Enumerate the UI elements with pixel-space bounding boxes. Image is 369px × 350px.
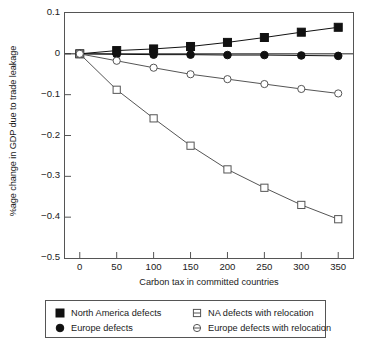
plot-area: [64, 12, 354, 259]
x-tick-label: 150: [171, 261, 211, 272]
data-point-marker: [187, 142, 194, 149]
data-point-marker: [335, 216, 342, 223]
data-point-marker: [187, 42, 195, 50]
data-point-marker: [150, 51, 158, 59]
x-tick-label: 50: [97, 261, 137, 272]
x-tick-label: 300: [281, 261, 321, 272]
y-tick-label: 0.1: [24, 7, 60, 17]
x-axis-title: Carbon tax in committed countries: [64, 277, 354, 287]
y-axis-tick-labels: 0.10−0.1−0.2−0.3−0.4−0.5: [20, 0, 60, 262]
plot-svg: [65, 13, 353, 258]
data-point-marker: [334, 23, 342, 31]
legend-item[interactable]: Europe defects with relocation: [191, 322, 331, 334]
data-point-marker: [334, 52, 342, 60]
legend-item[interactable]: NA defects with relocation: [191, 307, 314, 319]
data-point-marker: [187, 71, 194, 78]
y-tick-label: −0.3: [24, 170, 60, 180]
x-tick-label: 250: [244, 261, 284, 272]
x-axis-tick-labels: 050100150200250300350: [64, 261, 354, 277]
data-point-marker: [223, 38, 231, 46]
y-tick-label: −0.2: [24, 130, 60, 140]
chart-legend: North America defectsEurope defectsNA de…: [45, 300, 326, 338]
filled-square-icon: [54, 307, 66, 319]
data-point-marker: [56, 309, 64, 317]
data-point-marker: [298, 52, 306, 60]
open-circle-icon: [191, 322, 203, 334]
data-point-marker: [150, 64, 157, 71]
x-tick-label: 0: [60, 261, 100, 272]
y-tick-label: −0.1: [24, 89, 60, 99]
x-tick-label: 200: [207, 261, 247, 272]
legend-item-label: Europe defects with relocation: [208, 323, 331, 333]
y-tick-label: −0.4: [24, 211, 60, 221]
data-point-marker: [150, 115, 157, 122]
data-point-marker: [224, 166, 231, 173]
data-point-marker: [224, 51, 232, 59]
filled-circle-icon: [54, 322, 66, 334]
series-line: [80, 54, 338, 219]
data-point-marker: [335, 90, 342, 97]
legend-item-label: Europe defects: [71, 323, 133, 333]
legend-item-label: NA defects with relocation: [208, 308, 314, 318]
data-point-marker: [224, 76, 231, 83]
x-tick-label: 100: [134, 261, 174, 272]
legend-item-label: North America defects: [71, 308, 161, 318]
chart-figure: %age change in GDP due to trade leakage …: [0, 0, 369, 350]
data-point-marker: [113, 86, 120, 93]
data-point-marker: [261, 184, 268, 191]
open-square-icon: [191, 307, 203, 319]
y-axis-title: %age change in GDP due to trade leakage: [8, 46, 18, 217]
x-tick-label: 350: [318, 261, 358, 272]
data-point-marker: [261, 80, 268, 87]
y-tick-label: −0.5: [24, 252, 60, 262]
series-na-defects-with-relocation: [76, 50, 342, 223]
legend-item[interactable]: Europe defects: [54, 322, 133, 334]
legend-item[interactable]: North America defects: [54, 307, 161, 319]
data-point-marker: [76, 50, 83, 57]
data-point-marker: [298, 201, 305, 208]
data-point-marker: [56, 324, 64, 332]
y-tick-label: 0: [24, 48, 60, 58]
data-point-marker: [297, 28, 305, 36]
data-point-marker: [298, 85, 305, 92]
data-point-marker: [187, 51, 195, 59]
data-point-marker: [260, 34, 268, 42]
data-point-marker: [261, 51, 269, 59]
data-point-marker: [113, 57, 120, 64]
